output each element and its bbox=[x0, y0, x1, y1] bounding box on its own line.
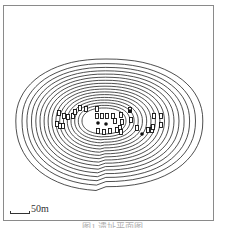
tomb-marker bbox=[63, 114, 66, 119]
tomb-marker bbox=[120, 130, 123, 135]
tomb-marker bbox=[130, 118, 133, 123]
tomb-marker bbox=[59, 124, 62, 129]
tomb-marker bbox=[136, 126, 139, 131]
contour-lines bbox=[16, 59, 203, 191]
tomb-marker bbox=[152, 125, 155, 130]
tomb-marker bbox=[106, 114, 109, 119]
tomb-marker bbox=[116, 128, 119, 133]
tomb-marker bbox=[74, 110, 77, 115]
figure-caption: 图1 遗址平面图 bbox=[0, 222, 225, 228]
scale-bar-line bbox=[10, 211, 30, 214]
contour-map bbox=[0, 0, 225, 228]
tomb-marker bbox=[56, 122, 59, 127]
tomb-marker bbox=[103, 130, 106, 135]
tomb-marker bbox=[114, 119, 117, 124]
tomb-marker bbox=[101, 114, 104, 119]
pit-dot bbox=[140, 132, 144, 136]
tomb-marker bbox=[67, 115, 70, 120]
tomb-marker bbox=[97, 129, 100, 134]
tomb-marker bbox=[58, 111, 61, 116]
scale-bar-label: 50m bbox=[31, 204, 49, 214]
tomb-marker bbox=[121, 120, 124, 125]
tomb-marker bbox=[96, 107, 99, 112]
contour-line bbox=[16, 59, 203, 191]
tomb-marker bbox=[160, 123, 163, 128]
tomb-marker bbox=[153, 114, 156, 119]
scale-bar: 50m bbox=[10, 204, 49, 214]
tomb-marker bbox=[85, 107, 88, 112]
pit-dot bbox=[128, 109, 132, 113]
contour-line bbox=[60, 92, 151, 152]
tomb-marker bbox=[112, 114, 115, 119]
tomb-marker bbox=[62, 124, 65, 129]
pit-dot bbox=[104, 122, 108, 126]
tomb-marker bbox=[79, 106, 82, 111]
pit-dot bbox=[96, 121, 100, 125]
tomb-marker bbox=[109, 129, 112, 134]
tomb-marker bbox=[120, 113, 123, 118]
tomb-marker bbox=[160, 114, 163, 119]
tomb-marker bbox=[96, 114, 99, 119]
tomb-marker bbox=[147, 128, 150, 133]
